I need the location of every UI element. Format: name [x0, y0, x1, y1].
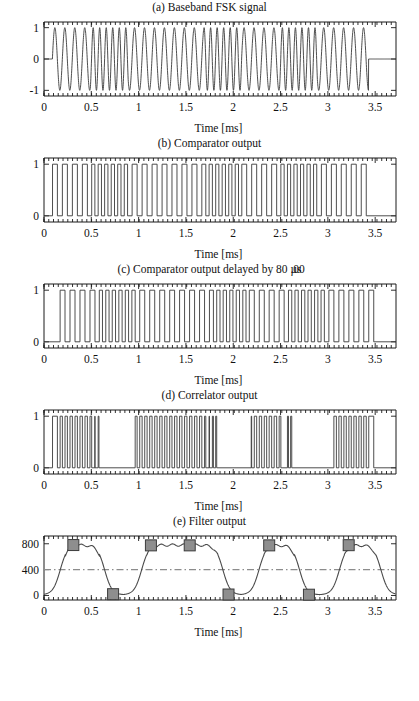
x-tick-label: 2	[230, 479, 236, 491]
x-tick-label: 2.5	[273, 353, 288, 365]
y-tick-label: 1	[33, 284, 39, 296]
x-tick-label: 1	[136, 101, 142, 113]
x-tick-label: 3	[325, 101, 331, 113]
panel-e-svg: 800400000.511.522.533.5	[0, 530, 419, 625]
y-tick-label: 1	[33, 22, 39, 34]
x-tick-label: 0.5	[84, 605, 99, 617]
x-tick-label: 3.5	[368, 101, 383, 113]
y-tick-label: 0	[33, 210, 39, 222]
x-tick-label: 3	[325, 479, 331, 491]
x-tick-label: 1	[136, 605, 142, 617]
decision-sample-marker	[68, 540, 79, 551]
x-tick-label: 1	[136, 479, 142, 491]
decision-sample-marker	[108, 589, 119, 600]
x-tick-label: 1.5	[179, 101, 194, 113]
y-tick-label: 1	[33, 410, 39, 422]
waveform-correlator-output	[44, 416, 396, 468]
x-tick-label: 0.5	[84, 479, 99, 491]
panel-e: (e) Filter output 800400000.511.522.533.…	[0, 514, 419, 640]
waveform-comparator-output-delayed	[44, 290, 396, 342]
panel-b-svg: 1000.511.522.533.5	[0, 152, 419, 247]
x-tick-label: 0	[41, 479, 47, 491]
panel-a-title: (a) Baseband FSK signal	[0, 0, 419, 16]
x-tick-label: 1.5	[179, 353, 194, 365]
panel-c-svg: 1000.511.522.533.5	[0, 278, 419, 373]
x-tick-label: 2.5	[273, 479, 288, 491]
panel-d-xlabel: Time [ms]	[0, 499, 419, 514]
panel-b-plot: 1000.511.522.533.5	[0, 152, 419, 247]
x-tick-label: 2.5	[273, 605, 288, 617]
panel-b: (b) Comparator output 1000.511.522.533.5…	[0, 136, 419, 262]
panel-a-xlabel: Time [ms]	[0, 121, 419, 136]
panel-d-title: (d) Correlator output	[0, 388, 419, 404]
y-tick-label: 0	[33, 589, 39, 601]
panel-e-plot: 800400000.511.522.533.5	[0, 530, 419, 625]
panel-d-svg: 1000.511.522.533.5	[0, 404, 419, 499]
y-tick-label: 0	[33, 336, 39, 348]
x-tick-label: 1.5	[179, 605, 194, 617]
panel-d-plot: 1000.511.522.533.5	[0, 404, 419, 499]
panel-c-title-overlap-under: .00	[290, 262, 304, 276]
panel-c-plot: 1000.511.522.533.5	[0, 278, 419, 373]
x-tick-label: 2	[230, 101, 236, 113]
panel-a-plot: 10-100.511.522.533.5	[0, 16, 419, 121]
x-tick-label: 0.5	[84, 353, 99, 365]
panel-c-title: (c) Comparator output delayed by 80 .00µ…	[0, 262, 419, 278]
x-tick-label: 0	[41, 227, 47, 239]
y-tick-label: 400	[22, 564, 40, 576]
waveform-comparator-output	[44, 164, 396, 216]
y-tick-label: 800	[22, 538, 40, 550]
y-tick-label: -1	[29, 84, 39, 96]
panel-e-title: (e) Filter output	[0, 514, 419, 530]
decision-sample-marker	[184, 540, 195, 551]
x-tick-label: 2	[230, 605, 236, 617]
x-tick-label: 2	[230, 227, 236, 239]
fsk-signal-chain-figure: (a) Baseband FSK signal 10-100.511.522.5…	[0, 0, 419, 701]
y-tick-label: 0	[33, 53, 39, 65]
x-tick-label: 1	[136, 227, 142, 239]
x-tick-label: 0	[41, 101, 47, 113]
x-tick-label: 0.5	[84, 101, 99, 113]
x-tick-label: 1.5	[179, 227, 194, 239]
x-tick-label: 1	[136, 353, 142, 365]
decision-sample-marker	[343, 540, 354, 551]
panel-b-xlabel: Time [ms]	[0, 247, 419, 262]
panel-a: (a) Baseband FSK signal 10-100.511.522.5…	[0, 0, 419, 136]
decision-sample-marker	[223, 589, 234, 600]
x-tick-label: 0.5	[84, 227, 99, 239]
x-tick-label: 0	[41, 353, 47, 365]
x-tick-label: 3.5	[368, 479, 383, 491]
x-tick-label: 3	[325, 605, 331, 617]
x-tick-label: 3.5	[368, 353, 383, 365]
y-tick-label: 0	[33, 462, 39, 474]
x-tick-label: 3.5	[368, 605, 383, 617]
waveform-fsk-signal	[44, 28, 396, 91]
panel-c-title-overlap: .00µs	[290, 262, 301, 276]
panel-d: (d) Correlator output 1000.511.522.533.5…	[0, 388, 419, 514]
x-tick-label: 0	[41, 605, 47, 617]
decision-sample-marker	[264, 540, 275, 551]
panel-c-xlabel: Time [ms]	[0, 373, 419, 388]
x-tick-label: 3.5	[368, 227, 383, 239]
panel-a-svg: 10-100.511.522.533.5	[0, 16, 419, 121]
decision-sample-marker	[303, 589, 314, 600]
x-tick-label: 2	[230, 353, 236, 365]
panel-c: (c) Comparator output delayed by 80 .00µ…	[0, 262, 419, 388]
x-tick-label: 3	[325, 353, 331, 365]
panel-c-title-main: (c) Comparator output delayed by 80	[117, 263, 290, 275]
x-tick-label: 3	[325, 227, 331, 239]
x-tick-label: 1.5	[179, 479, 194, 491]
panel-b-title: (b) Comparator output	[0, 136, 419, 152]
decision-sample-marker	[145, 540, 156, 551]
y-tick-label: 1	[33, 158, 39, 170]
x-tick-label: 2.5	[273, 227, 288, 239]
panel-e-xlabel: Time [ms]	[0, 625, 419, 640]
x-tick-label: 2.5	[273, 101, 288, 113]
